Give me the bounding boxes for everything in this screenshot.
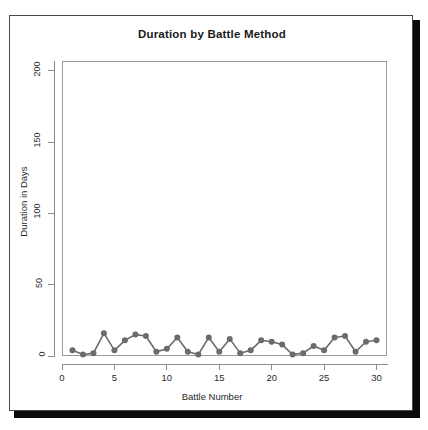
y-axis-title: Duration in Days — [18, 142, 29, 262]
y-tick-label: 50 — [10, 278, 44, 288]
x-tick-label: 15 — [204, 372, 234, 383]
x-tick-label: 30 — [362, 372, 392, 383]
data-point — [321, 347, 327, 353]
series-line — [72, 333, 376, 354]
x-axis-title: Battle Number — [10, 391, 413, 402]
x-axis-line — [62, 364, 388, 365]
data-point — [111, 347, 117, 353]
y-axis-line — [54, 61, 55, 357]
y-tick-mark — [48, 356, 54, 357]
data-point — [132, 332, 138, 338]
data-point — [69, 347, 75, 353]
y-tick-label: 200 — [10, 64, 44, 74]
data-point — [237, 350, 243, 356]
y-tick-mark — [48, 70, 54, 71]
data-point — [101, 330, 107, 336]
data-point — [363, 339, 369, 345]
x-tick-label: 25 — [309, 372, 339, 383]
data-point — [90, 350, 96, 356]
data-point — [153, 349, 159, 355]
x-tick-mark — [271, 364, 272, 370]
x-tick-label: 20 — [257, 372, 287, 383]
data-point — [332, 334, 338, 340]
data-point — [311, 343, 317, 349]
series-markers — [69, 330, 379, 357]
data-point — [195, 352, 201, 358]
x-tick-label: 5 — [99, 372, 129, 383]
data-point — [185, 349, 191, 355]
clipped-header-text — [0, 0, 428, 10]
data-point — [279, 342, 285, 348]
data-point — [300, 350, 306, 356]
x-tick-label: 10 — [152, 372, 182, 383]
chart-card: Duration by Battle Method 050100150200 0… — [9, 15, 413, 411]
data-point — [342, 333, 348, 339]
x-tick-mark — [166, 364, 167, 370]
data-point — [174, 334, 180, 340]
y-tick-mark — [48, 142, 54, 143]
y-tick-mark — [48, 213, 54, 214]
y-tick-mark — [48, 284, 54, 285]
data-point — [248, 347, 254, 353]
data-point — [353, 349, 359, 355]
page-title: Duration by Battle Method — [10, 28, 413, 40]
data-point — [164, 346, 170, 352]
data-point — [290, 352, 296, 358]
x-tick-mark — [324, 364, 325, 370]
data-point — [374, 337, 380, 343]
data-point — [143, 333, 149, 339]
x-tick-mark — [219, 364, 220, 370]
x-tick-label: 0 — [47, 372, 77, 383]
data-point — [122, 337, 128, 343]
x-tick-mark — [62, 364, 63, 370]
data-point — [258, 337, 264, 343]
x-tick-mark — [114, 364, 115, 370]
x-tick-mark — [376, 364, 377, 370]
data-point — [206, 334, 212, 340]
data-point — [216, 349, 222, 355]
data-point — [80, 352, 86, 358]
y-tick-label: 0 — [10, 349, 44, 359]
data-point — [269, 339, 275, 345]
data-series-plot — [62, 61, 387, 356]
data-point — [227, 336, 233, 342]
